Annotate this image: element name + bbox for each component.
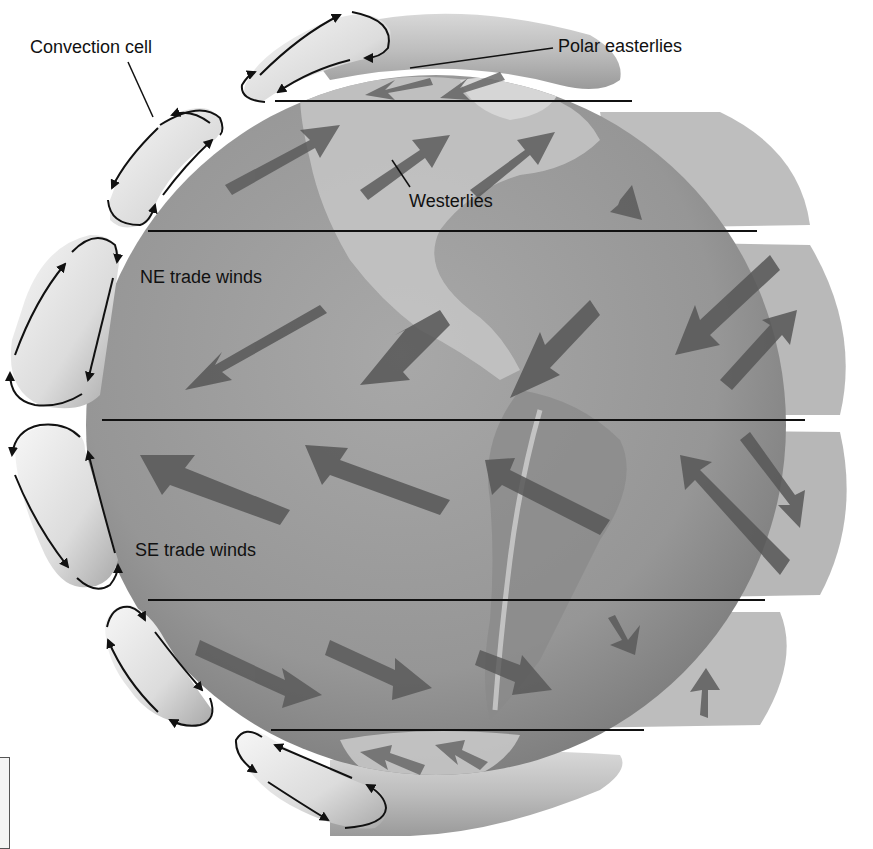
label-se-trade-winds: SE trade winds — [135, 541, 256, 559]
cropped-frame-edge — [0, 757, 10, 849]
label-convection-cell: Convection cell — [30, 38, 152, 56]
label-ne-trade-winds: NE trade winds — [140, 268, 262, 286]
label-polar-easterlies: Polar easterlies — [558, 37, 682, 55]
convection-cell-leader — [128, 62, 153, 117]
label-westerlies: Westerlies — [409, 192, 493, 210]
